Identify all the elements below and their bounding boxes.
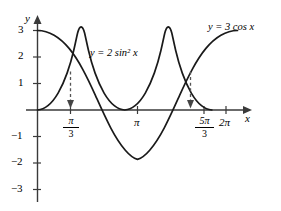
fraction-numerator: 5π: [195, 116, 214, 127]
x-axis-label: x: [245, 113, 250, 124]
y-tick-label-1: 1: [18, 77, 24, 88]
y-axis: [34, 15, 42, 202]
y-tick-label-minus-3: −3: [11, 183, 22, 194]
y-axis-label: y: [25, 13, 30, 24]
y-tick-label-3: 3: [18, 24, 24, 35]
x-tick-label-pi: π: [134, 117, 140, 128]
y-tick-label-2: 2: [18, 50, 24, 61]
trigonometric-graph-figure: y x 3 2 1 −1 −2 −3 π 3 π 5π 3 2π y = 2 s…: [0, 0, 281, 211]
x-tick-label-2pi: 2π: [219, 117, 230, 128]
fraction-denominator: 3: [63, 129, 79, 140]
curve-label-cosine-text: y = 3 cos x: [208, 21, 254, 32]
y-tick-label-minus-1: −1: [11, 130, 22, 141]
fraction-denominator: 3: [195, 129, 214, 140]
x-tick-label-5pi-over-3: 5π 3: [195, 116, 214, 139]
annotation-arrow-left: [67, 72, 74, 109]
curve-label-sine-squared: y = 2 sin² x: [90, 48, 138, 59]
curve-label-cosine: y = 3 cos x: [208, 22, 254, 33]
x-tick-label-pi-over-3: π 3: [63, 116, 79, 139]
y-tick-label-minus-2: −2: [11, 156, 22, 167]
x-axis: [26, 106, 252, 114]
curve-label-sine-squared-text: y = 2 sin² x: [90, 47, 138, 58]
fraction-numerator: π: [63, 116, 79, 127]
curve-sine-squared: [38, 27, 212, 110]
